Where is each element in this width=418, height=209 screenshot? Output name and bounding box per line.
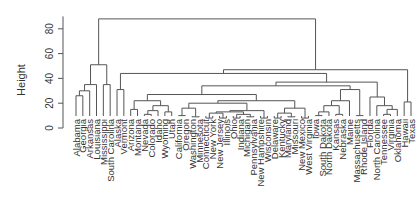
y-tick-label: 60 — [44, 48, 55, 60]
y-axis: 020406080 — [44, 16, 63, 130]
y-tick-label: 0 — [44, 125, 55, 131]
y-tick-label: 80 — [44, 23, 55, 35]
y-tick-label: 20 — [44, 97, 55, 109]
leaf-label: Texas — [406, 119, 417, 144]
dendrogram-plot: 020406080 Height AlabamaGeorgiaArkansasL… — [0, 0, 418, 209]
dendrogram-links — [76, 19, 411, 118]
y-axis-label: Height — [15, 64, 27, 96]
leaf-labels: AlabamaGeorgiaArkansasLouisianaMississip… — [71, 118, 417, 186]
y-tick-label: 40 — [44, 72, 55, 84]
dendrogram-chart: 020406080 Height AlabamaGeorgiaArkansasL… — [0, 0, 418, 209]
